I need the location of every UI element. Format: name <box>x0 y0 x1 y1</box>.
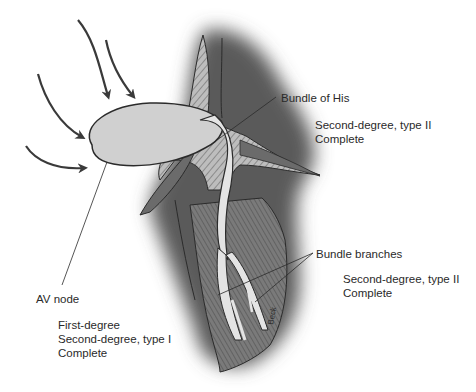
arrow-icon <box>78 20 108 96</box>
label-bundle-branches-blocks: Second-degree, type II Complete <box>343 272 459 300</box>
label-bundle-branches: Bundle branches <box>316 247 402 261</box>
label-bundle-of-his: Bundle of His <box>281 91 349 105</box>
label-bundle-of-his-blocks: Second-degree, type II Complete <box>315 118 431 146</box>
arrow-icon <box>38 74 82 137</box>
label-av-node: AV node <box>36 292 79 306</box>
conduction-diagram: Beck Bundle of His Second-degree, type I… <box>0 0 476 392</box>
label-av-node-blocks: First-degree Second-degree, type I Compl… <box>58 318 171 360</box>
arrow-icon <box>106 40 133 96</box>
arrow-icon <box>26 146 84 168</box>
